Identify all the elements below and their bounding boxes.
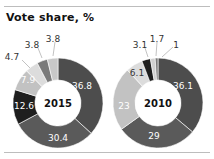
segment-label: 36.1 [173,81,193,91]
segment-label: 23 [118,101,129,111]
bottom-rule [4,152,210,153]
segment-label: 7.9 [21,75,36,85]
segment-label: 29 [148,131,160,141]
donut-center-year: 2010 [144,98,172,109]
segment-label: 1 [173,40,179,50]
segment-label: 6.1 [130,68,144,78]
leader-line [22,60,30,68]
donut-segment [158,58,203,132]
segment-label: 12.6 [14,101,34,111]
segment-label: 1.7 [150,34,164,44]
leader-line [162,47,173,57]
segment-label: 3.1 [133,40,147,50]
leader-line [53,42,55,56]
leader-line [38,48,42,58]
donut-2015: 36.830.412.67.94.73.83.82015 [5,34,103,149]
segment-label: 3.8 [46,34,61,44]
donut-segment [58,58,103,133]
segment-label: 36.8 [72,81,92,91]
segment-label: 30.4 [48,133,68,143]
segment-label: 3.8 [25,40,40,50]
leader-line [156,42,157,56]
donut-center-year: 2015 [44,98,72,109]
donut-charts: 36.830.412.67.94.73.83.8201536.129236.13… [0,0,214,159]
segment-label: 4.7 [5,52,19,62]
donut-2010: 36.129236.13.11.712010 [113,34,203,149]
